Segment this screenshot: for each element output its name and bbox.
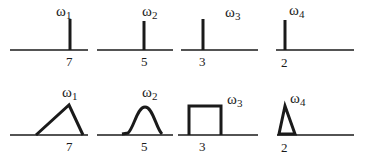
tick-label: 2 [281,140,288,155]
bottom-panel-4: ω4 2 [277,90,354,155]
top-row: ω1 7 ω2 5 ω3 3 ω4 2 [10,2,354,70]
tick-label: 7 [66,139,73,154]
tick-label: 7 [66,54,73,69]
omega-label: ω1 [56,3,71,21]
omega-label: ω3 [227,91,243,109]
omega-label: ω3 [225,4,241,22]
narrow-triangle-icon [279,106,295,134]
top-panel-3: ω3 3 [181,4,258,69]
top-panel-4: ω4 2 [276,2,354,70]
tick-label: 2 [281,55,288,70]
tick-label: 5 [141,54,148,69]
tick-label: 3 [199,139,206,154]
tick-label: 3 [199,54,206,69]
omega-label: ω2 [142,3,157,21]
tick-label: 5 [141,139,148,154]
bottom-panel-2: ω2 5 [97,84,173,154]
omega-label: ω4 [289,2,305,20]
top-panel-2: ω2 5 [97,3,173,69]
bell-curve-icon [122,107,162,134]
bottom-panel-1: ω1 7 [10,84,88,154]
bottom-panel-3: ω3 3 [178,91,258,154]
rectangle-icon [189,106,221,135]
omega-label: ω4 [290,90,306,108]
omega-label: ω1 [62,84,77,102]
triangle-icon [36,105,83,135]
top-panel-1: ω1 7 [10,3,88,69]
omega-label: ω2 [142,84,157,102]
membership-diagram: ω1 7 ω2 5 ω3 3 ω4 2 ω1 [0,0,367,164]
bottom-row: ω1 7 ω2 5 ω3 3 ω4 2 [10,84,354,155]
